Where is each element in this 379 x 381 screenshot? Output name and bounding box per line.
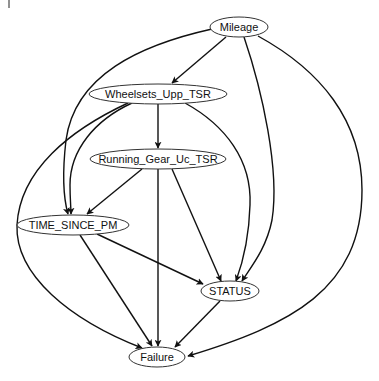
node-failure: Failure <box>129 347 185 367</box>
node-label: TIME_SINCE_PM <box>29 219 118 231</box>
node-label: Wheelsets_Upp_TSR <box>105 88 211 100</box>
edge-wheelsets-status <box>185 103 250 281</box>
edge-mileage-status <box>242 37 274 281</box>
node-wheelsets-upp-tsr: Wheelsets_Upp_TSR <box>89 84 227 104</box>
edge-time-since-pm-status <box>97 234 203 284</box>
node-label: Running_Gear_Uc_TSR <box>98 153 217 165</box>
edge-status-failure <box>175 301 220 347</box>
node-status: STATUS <box>201 281 259 301</box>
edge-mileage-wheelsets <box>172 37 226 83</box>
node-time-since-pm: TIME_SINCE_PM <box>17 215 129 235</box>
edge-running-gear-time-since-pm <box>87 169 142 214</box>
node-label: Mileage <box>220 21 259 33</box>
edge-mileage-time-since-pm <box>64 29 212 214</box>
bayesian-network-diagram: Mileage Wheelsets_Upp_TSR Running_Gear_U… <box>0 0 379 381</box>
edge-running-gear-status <box>172 169 221 281</box>
node-label: Failure <box>140 351 174 363</box>
edge-time-since-pm-failure <box>80 235 152 346</box>
node-mileage: Mileage <box>210 17 268 37</box>
edges <box>17 29 362 356</box>
node-running-gear-uc-tsr: Running_Gear_Uc_TSR <box>90 149 226 169</box>
node-label: STATUS <box>209 285 251 297</box>
